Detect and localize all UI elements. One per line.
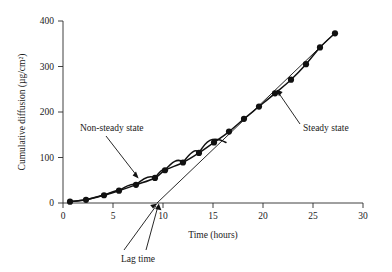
- x-tick-label-20: 20: [258, 211, 268, 221]
- diffusion-chart-figure: 0 100 200 300 400 0 5 10 15 20 25 30 T: [0, 0, 392, 272]
- y-axis-title: Cumulative diffusion (µg/cm²): [17, 54, 28, 171]
- x-tick-label-30: 30: [358, 211, 368, 221]
- y-tick-label-300: 300: [40, 62, 55, 72]
- x-tick-label-25: 25: [308, 211, 318, 221]
- y-tick-label-0: 0: [49, 198, 54, 208]
- chart-canvas: 0 100 200 300 400 0 5 10 15 20 25 30 T: [0, 0, 392, 272]
- x-tick-label-0: 0: [61, 211, 66, 221]
- data-point-marker: [162, 167, 168, 173]
- data-point-marker: [101, 192, 107, 198]
- x-tick-label-5: 5: [111, 211, 116, 221]
- non-steady-state-arrowhead: [133, 172, 139, 179]
- data-point-marker: [196, 150, 202, 156]
- data-point-marker: [241, 116, 247, 122]
- lag-time-label: Lag time: [121, 254, 155, 264]
- y-tick-label-200: 200: [40, 107, 55, 117]
- x-axis-title: Time (hours): [188, 230, 238, 241]
- data-point-marker: [226, 128, 232, 134]
- steady-state-label: Steady state: [303, 123, 349, 133]
- steady-state-leader-line: [278, 92, 300, 124]
- x-tick-label-15: 15: [208, 211, 218, 221]
- data-point-marker: [116, 188, 122, 194]
- data-point-marker: [133, 182, 139, 188]
- data-point-marker: [180, 159, 186, 165]
- data-curve-segment-early: [70, 139, 226, 201]
- data-curve-group: [70, 139, 226, 201]
- data-point-marker: [152, 175, 158, 181]
- data-point-marker: [303, 61, 309, 67]
- non-steady-state-leader-line: [106, 136, 137, 176]
- data-point-marker: [332, 30, 338, 36]
- lag-time-leader-line-left: [124, 206, 156, 250]
- non-steady-state-label: Non-steady state: [80, 123, 144, 133]
- x-tick-label-10: 10: [158, 211, 168, 221]
- data-point-marker: [317, 44, 323, 50]
- x-axis-tick-labels: 0 5 10 15 20 25 30: [61, 211, 368, 221]
- y-axis-tick-labels: 0 100 200 300 400: [40, 16, 55, 208]
- data-point-marker: [83, 197, 89, 203]
- annotation-lag-time: Lag time: [121, 203, 161, 264]
- data-point-marker: [288, 77, 294, 83]
- y-tick-label-400: 400: [40, 16, 55, 26]
- y-tick-label-100: 100: [40, 153, 55, 163]
- x-axis-ticks: [63, 203, 363, 208]
- lag-time-leader-line-right: [146, 206, 158, 250]
- data-point-marker: [256, 103, 262, 109]
- data-point-marker: [211, 139, 217, 145]
- annotation-non-steady-state: Non-steady state: [80, 123, 144, 179]
- y-axis-ticks: [58, 21, 63, 203]
- data-series-layer: [67, 30, 338, 205]
- data-point-marker: [67, 199, 73, 205]
- annotation-steady-state: Steady state: [276, 89, 348, 133]
